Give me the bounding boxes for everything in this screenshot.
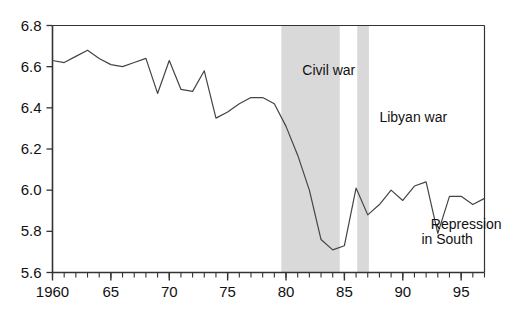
x-tick-label: 80	[256, 283, 316, 300]
plot-frame	[53, 26, 485, 273]
y-tick-label: 6.2	[0, 140, 42, 157]
x-tick-label: 90	[373, 283, 433, 300]
x-tick-label: 1960	[23, 283, 83, 300]
y-tick-label: 5.6	[0, 264, 42, 281]
x-tick-label: 95	[431, 283, 491, 300]
x-tick-label: 65	[81, 283, 141, 300]
y-tick-label: 6.0	[0, 181, 42, 198]
x-tick-label: 75	[198, 283, 258, 300]
fertility-series-line	[53, 50, 485, 250]
x-tick-label: 85	[314, 283, 374, 300]
y-tick-label: 6.8	[0, 17, 42, 34]
chart-figure: 5.65.86.06.26.46.66.8 196065707580859095…	[0, 0, 516, 323]
libyan-war-annotation: Libyan war	[379, 109, 447, 127]
line-chart-plot	[0, 0, 516, 323]
axis-ticks	[47, 26, 485, 281]
x-tick-label: 70	[139, 283, 199, 300]
repression-annotation-line2: in South	[421, 231, 472, 249]
civil-war-annotation: Civil war	[302, 62, 355, 80]
libyan-war-band	[357, 26, 369, 273]
y-tick-label: 6.4	[0, 99, 42, 116]
y-tick-label: 6.6	[0, 58, 42, 75]
y-tick-label: 5.8	[0, 222, 42, 239]
